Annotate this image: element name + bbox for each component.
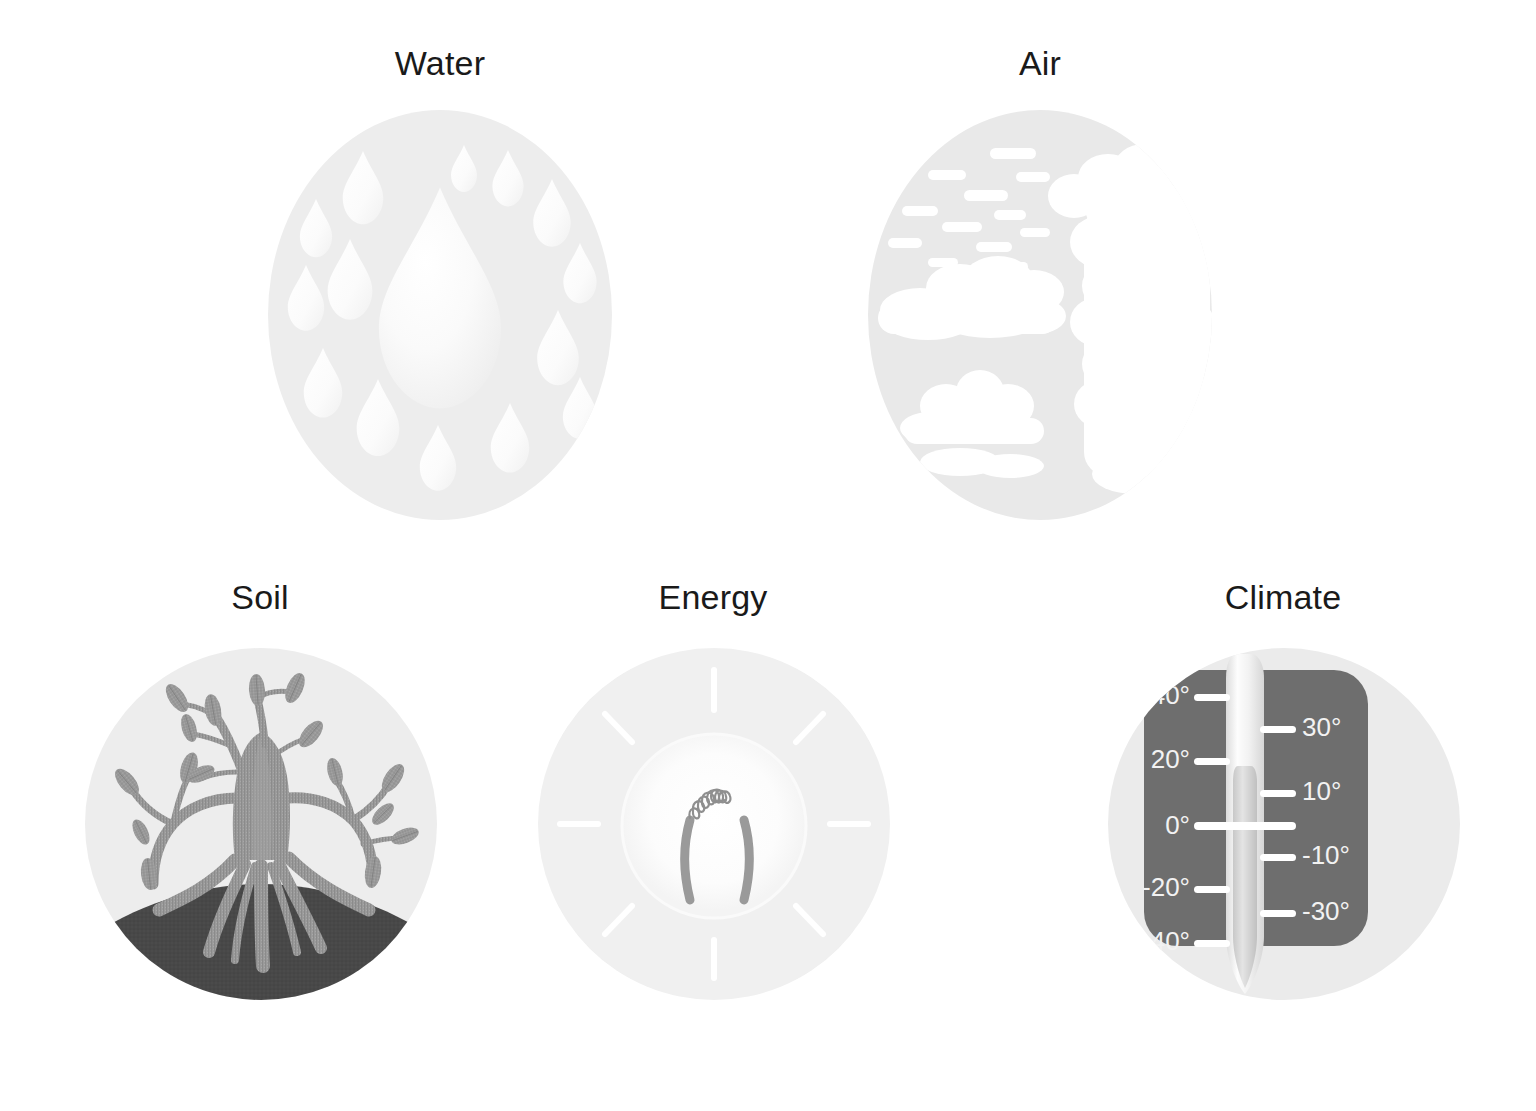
scale-label-0: 0° xyxy=(1165,810,1190,840)
page-title-air: Air xyxy=(848,44,1232,83)
scale-label-20: 20° xyxy=(1151,744,1190,774)
cumulonimbus-cloud xyxy=(1048,144,1212,494)
scale-label-neg10: -10° xyxy=(1302,840,1350,870)
scale-label-30: 30° xyxy=(1302,712,1341,742)
lightbulb-icon xyxy=(538,648,890,1000)
page-title-soil: Soil xyxy=(55,578,465,617)
stratus-cloud xyxy=(878,256,1066,340)
raindrops-icon xyxy=(268,110,612,520)
scale-label-neg40: -40° xyxy=(1142,926,1190,956)
raindrop-large xyxy=(379,188,501,409)
panel-climate: Climate xyxy=(1078,578,1488,1048)
air-disc xyxy=(868,110,1212,520)
thermometer-liquid xyxy=(1233,766,1257,988)
energy-disc xyxy=(538,648,890,1000)
panel-air: Air xyxy=(848,44,1232,474)
scale-label-neg30: -30° xyxy=(1302,896,1350,926)
panel-water: Water xyxy=(248,44,632,474)
page-title-water: Water xyxy=(248,44,632,83)
scale-label-neg20: -20° xyxy=(1142,872,1190,902)
cumulus-cloud xyxy=(900,370,1044,478)
clouds-icon xyxy=(868,110,1212,520)
panel-energy: Energy xyxy=(508,578,918,1048)
water-disc xyxy=(268,110,612,520)
page-title-energy: Energy xyxy=(508,578,918,617)
page-title-climate: Climate xyxy=(1078,578,1488,617)
tree-in-soil-icon xyxy=(85,648,437,1000)
scale-label-40: 40° xyxy=(1151,680,1190,710)
panel-soil: Soil xyxy=(55,578,465,1048)
climate-disc: 40° 30° 20° 10° 0° -10° -20° -30° -40° xyxy=(1108,648,1460,1000)
soil-disc xyxy=(85,648,437,1000)
scale-label-10: 10° xyxy=(1302,776,1341,806)
thermometer-icon: 40° 30° 20° 10° 0° -10° -20° -30° -40° xyxy=(1108,648,1460,1000)
